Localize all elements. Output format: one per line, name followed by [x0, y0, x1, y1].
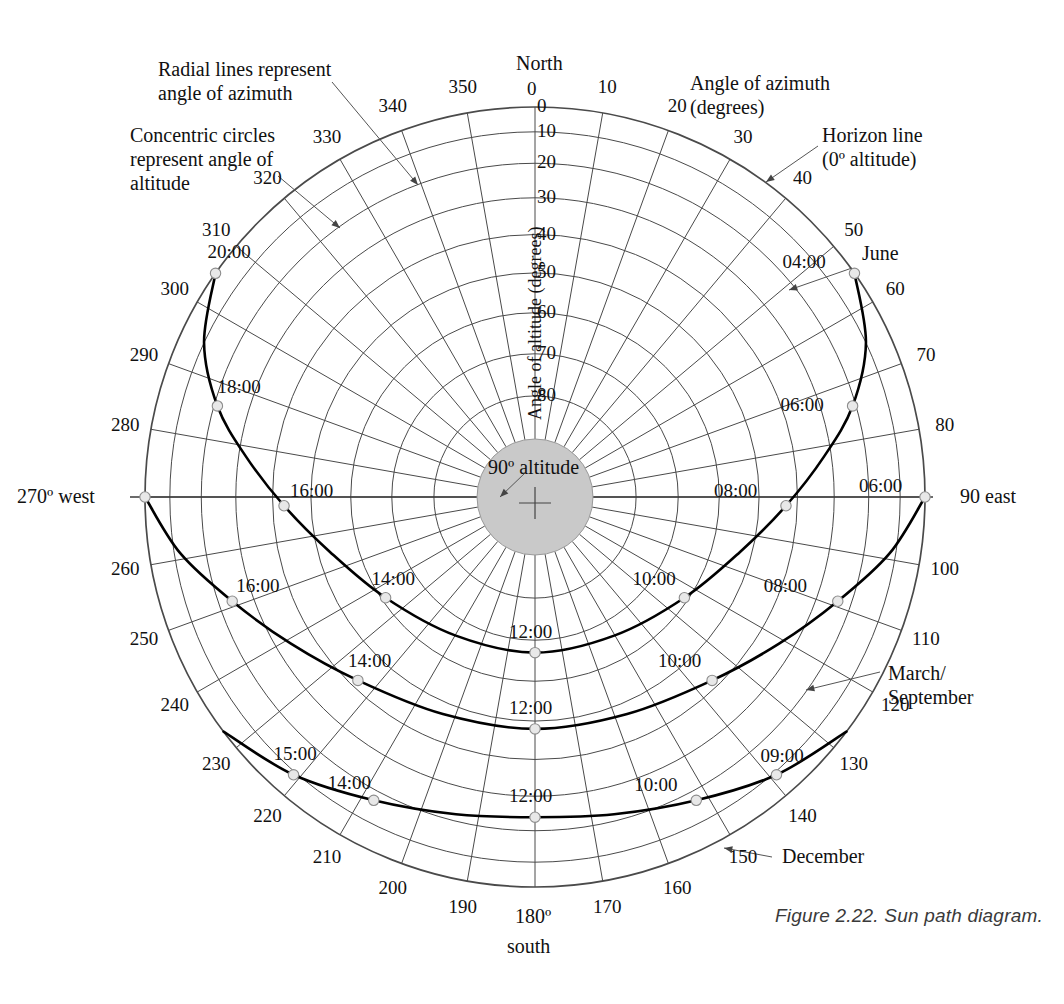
hour-marker — [920, 492, 930, 502]
hour-marker — [288, 770, 298, 780]
altitude-label-20: 20 — [537, 151, 556, 172]
azimuth-label-40: 40 — [793, 167, 812, 188]
hour-marker — [833, 596, 843, 606]
azimuth-label-210: 210 — [313, 846, 342, 867]
hour-label-1200: 12:00 — [509, 785, 552, 806]
azimuth-label-230: 230 — [202, 753, 231, 774]
hour-label-0600: 06:00 — [859, 475, 902, 496]
season-label-march-september-line2: September — [888, 686, 974, 708]
concentric-circles-note-line3: altitude — [130, 172, 190, 194]
azimuth-label-320: 320 — [253, 167, 282, 188]
hour-marker — [212, 401, 222, 411]
hour-label-1800: 18:00 — [217, 376, 260, 397]
hour-marker — [210, 268, 220, 278]
azimuth-label-70: 70 — [916, 344, 935, 365]
azimuth-axis-title-line1: Angle of azimuth — [690, 72, 830, 94]
cardinal-east: 90 east — [960, 485, 1016, 507]
hour-label-0600: 06:00 — [781, 394, 824, 415]
figure-caption: Figure 2.22. Sun path diagram. — [775, 905, 1043, 927]
azimuth-label-260: 260 — [111, 558, 140, 579]
hour-label-1200: 12:00 — [509, 697, 552, 718]
hour-label-1000: 10:00 — [634, 774, 677, 795]
concentric-circles-note-line2: represent angle of — [130, 148, 273, 170]
hour-marker — [847, 401, 857, 411]
azimuth-label-10: 10 — [598, 76, 617, 97]
azimuth-label-220: 220 — [253, 805, 282, 826]
altitude-axis-title: Angle of altitude (degrees) — [525, 227, 545, 420]
azimuth-label-310: 310 — [202, 219, 231, 240]
hour-marker — [679, 593, 689, 603]
altitude-label-0: 0 — [537, 95, 547, 116]
hour-marker — [781, 501, 791, 511]
azimuth-label-110: 110 — [912, 628, 940, 649]
hour-marker — [849, 268, 859, 278]
azimuth-label-80: 80 — [935, 414, 954, 435]
hour-label-2000: 20:00 — [208, 241, 251, 262]
hour-marker — [530, 647, 540, 657]
june-leader-arrowhead — [789, 284, 798, 290]
hour-marker — [369, 795, 379, 805]
hour-label-0900: 09:00 — [760, 745, 803, 766]
hour-marker — [279, 501, 289, 511]
altitude-label-10: 10 — [537, 120, 556, 141]
azimuth-label-280: 280 — [111, 414, 140, 435]
azimuth-label-200: 200 — [378, 877, 407, 898]
hour-label-1600: 16:00 — [236, 575, 279, 596]
concentric-circles-note-line1: Concentric circles — [130, 124, 275, 146]
azimuth-label-160: 160 — [663, 877, 692, 898]
horizon-line-leader-arrowhead — [766, 174, 775, 182]
hour-marker — [691, 795, 701, 805]
hour-marker — [771, 770, 781, 780]
cardinal-west: 270º west — [17, 485, 95, 507]
zenith-altitude-note: 90º altitude — [488, 456, 579, 478]
azimuth-label-20: 20 — [668, 95, 687, 116]
hour-label-0400: 04:00 — [782, 251, 825, 272]
hour-marker — [380, 593, 390, 603]
azimuth-label-190: 190 — [449, 896, 478, 917]
season-label-december: December — [782, 845, 864, 867]
hour-marker — [140, 492, 150, 502]
hour-marker — [353, 675, 363, 685]
azimuth-axis-title-line2: (degrees) — [690, 96, 764, 118]
altitude-label-30: 30 — [537, 186, 556, 207]
azimuth-label-240: 240 — [160, 694, 189, 715]
hour-label-1400: 14:00 — [348, 650, 391, 671]
azimuth-label-0: 0 — [527, 78, 537, 99]
azimuth-label-330: 330 — [313, 126, 342, 147]
cardinal-south: south — [507, 935, 550, 957]
azimuth-label-30: 30 — [734, 126, 753, 147]
hour-label-1500: 15:00 — [274, 743, 317, 764]
hour-marker — [707, 675, 717, 685]
hour-label-1000: 10:00 — [658, 650, 701, 671]
azimuth-label-140: 140 — [788, 805, 817, 826]
hour-marker — [530, 724, 540, 734]
radial-lines-note-line2: angle of azimuth — [158, 82, 292, 104]
hour-label-1200: 12:00 — [509, 621, 552, 642]
sun-path-figure: 1020304050607080100110120130140150160170… — [0, 0, 1064, 1004]
azimuth-label-100: 100 — [930, 558, 959, 579]
hour-label-1400: 14:00 — [328, 772, 371, 793]
season-label-march-september-line1: March/ — [888, 662, 946, 684]
hour-label-0800: 08:00 — [764, 575, 807, 596]
azimuth-label-180: 180º — [515, 905, 551, 927]
horizon-line-note-line1: Horizon line — [822, 124, 923, 146]
hour-marker — [227, 596, 237, 606]
hour-label-1600: 16:00 — [290, 480, 333, 501]
azimuth-label-170: 170 — [593, 896, 622, 917]
azimuth-label-250: 250 — [130, 628, 159, 649]
horizon-line-note-line2: (0º altitude) — [822, 148, 917, 170]
azimuth-label-60: 60 — [886, 278, 905, 299]
azimuth-label-290: 290 — [130, 344, 159, 365]
azimuth-label-300: 300 — [160, 278, 189, 299]
radial-lines-note-line1: Radial lines represent — [158, 58, 331, 80]
hour-label-1400: 14:00 — [372, 568, 415, 589]
hour-label-0800: 08:00 — [714, 480, 757, 501]
season-label-june: June — [862, 242, 899, 264]
azimuth-label-350: 350 — [449, 76, 478, 97]
hour-marker — [530, 812, 540, 822]
azimuth-label-50: 50 — [844, 219, 863, 240]
azimuth-label-130: 130 — [839, 753, 868, 774]
cardinal-north: North — [516, 52, 563, 74]
radial-lines-leader-arrowhead — [410, 176, 418, 185]
hour-label-1000: 10:00 — [632, 568, 675, 589]
